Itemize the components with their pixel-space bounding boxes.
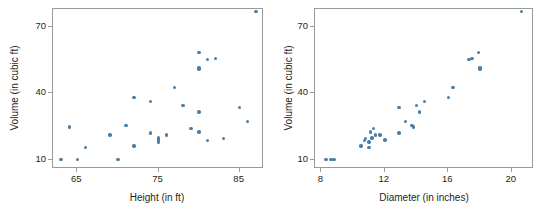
x-axis-tick xyxy=(384,168,385,172)
data-point xyxy=(124,124,127,127)
data-point xyxy=(59,158,62,161)
x-axis-tick-label: 75 xyxy=(152,174,163,184)
data-point xyxy=(206,139,209,142)
data-point xyxy=(214,57,217,60)
data-point xyxy=(197,110,200,113)
data-point xyxy=(246,120,249,123)
data-point xyxy=(132,96,135,99)
data-point xyxy=(447,96,450,99)
data-point xyxy=(418,110,421,113)
x-axis-tick xyxy=(511,168,512,172)
x-axis-title-left: Height (in ft) xyxy=(130,192,184,203)
plot-area-left xyxy=(53,9,262,167)
data-point xyxy=(332,158,335,161)
y-axis-title-right: Volume (in cubic ft) xyxy=(283,45,294,130)
x-axis-tick-label: 16 xyxy=(442,174,453,184)
data-point xyxy=(451,86,454,89)
data-point xyxy=(520,10,523,13)
data-point xyxy=(222,137,225,140)
data-point xyxy=(397,106,400,109)
figure-two-scatterplots: 657585 104070 Height (in ft) Volume (in … xyxy=(0,0,548,210)
data-point xyxy=(372,127,375,130)
y-axis-tick xyxy=(310,26,314,27)
data-point xyxy=(197,51,200,54)
plot-frame-left xyxy=(52,8,263,168)
x-axis-tick-label: 85 xyxy=(233,174,244,184)
data-point xyxy=(477,51,480,54)
data-point xyxy=(149,131,152,134)
y-axis-tick-label: 10 xyxy=(292,154,308,164)
y-axis-tick xyxy=(48,26,52,27)
data-point xyxy=(470,57,473,60)
data-point xyxy=(173,86,176,89)
y-axis-tick xyxy=(310,92,314,93)
data-point xyxy=(189,127,192,130)
data-point xyxy=(369,130,372,133)
data-point xyxy=(412,125,415,128)
x-axis-tick-label: 12 xyxy=(379,174,390,184)
data-point xyxy=(206,58,209,61)
x-axis-tick xyxy=(158,168,159,172)
data-point xyxy=(415,104,418,107)
data-point xyxy=(324,158,327,161)
x-axis-tick xyxy=(447,168,448,172)
y-axis-tick-label: 70 xyxy=(292,21,308,31)
data-point xyxy=(423,100,426,103)
data-point xyxy=(108,133,111,136)
y-axis-title-left: Volume (in cubic ft) xyxy=(9,45,20,130)
x-axis-tick xyxy=(320,168,321,172)
data-point xyxy=(378,133,381,136)
data-point xyxy=(397,131,400,134)
data-point xyxy=(254,10,257,13)
data-point xyxy=(359,144,362,147)
data-point xyxy=(197,67,200,70)
y-axis-tick-label: 40 xyxy=(292,87,308,97)
y-axis-tick xyxy=(48,92,52,93)
data-point xyxy=(404,120,407,123)
x-axis-tick-label: 65 xyxy=(71,174,82,184)
y-axis-tick xyxy=(310,159,314,160)
x-axis-tick-label: 8 xyxy=(318,174,323,184)
plot-frame-right xyxy=(314,8,533,168)
data-point xyxy=(197,130,200,133)
data-point xyxy=(68,125,71,128)
x-axis-tick-label: 20 xyxy=(505,174,516,184)
plot-area-right xyxy=(315,9,532,167)
y-axis-tick-label: 10 xyxy=(30,154,46,164)
x-axis-tick xyxy=(239,168,240,172)
data-point xyxy=(367,140,370,143)
data-point xyxy=(181,104,184,107)
data-point xyxy=(116,158,119,161)
y-axis-tick xyxy=(48,159,52,160)
data-point xyxy=(84,146,87,149)
data-point xyxy=(149,100,152,103)
data-point xyxy=(383,138,386,141)
x-axis-tick xyxy=(76,168,77,172)
data-point xyxy=(238,106,241,109)
data-point xyxy=(478,67,481,70)
data-point xyxy=(157,138,160,141)
data-point xyxy=(367,146,370,149)
data-point xyxy=(370,136,373,139)
y-axis-tick-label: 40 xyxy=(30,87,46,97)
data-point xyxy=(132,144,135,147)
scatterplot-volume-vs-diameter: 8121620 104070 Diameter (in inches) Volu… xyxy=(274,0,548,210)
x-axis-title-right: Diameter (in inches) xyxy=(379,192,468,203)
y-axis-tick-label: 70 xyxy=(30,21,46,31)
scatterplot-volume-vs-height: 657585 104070 Height (in ft) Volume (in … xyxy=(0,0,274,210)
data-point xyxy=(76,158,79,161)
